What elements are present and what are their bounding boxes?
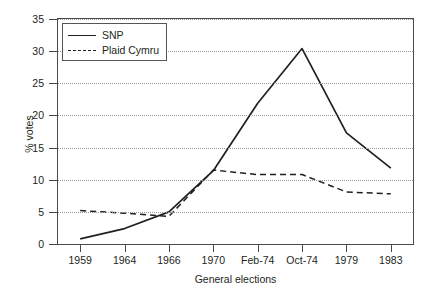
y-axis-label: 10 bbox=[0, 175, 44, 186]
x-axis-tick bbox=[258, 245, 259, 252]
y-axis-label: 20 bbox=[0, 110, 44, 121]
y-axis-tick bbox=[49, 244, 57, 245]
y-axis-tick bbox=[49, 83, 57, 84]
gridline bbox=[58, 148, 413, 149]
x-axis-tick bbox=[302, 245, 303, 252]
legend-item-plaid-cymru: Plaid Cymru bbox=[68, 43, 166, 58]
gridline bbox=[58, 180, 413, 181]
y-axis-label: 30 bbox=[0, 46, 44, 57]
series-line-snp bbox=[80, 49, 391, 239]
y-axis-label: 5 bbox=[0, 207, 44, 218]
gridline bbox=[58, 212, 413, 213]
y-axis-tick bbox=[49, 115, 57, 116]
chart-legend: SNP Plaid Cymru bbox=[62, 23, 167, 61]
y-axis-title: % votes bbox=[23, 89, 35, 179]
chart-container: % votes 05101520253035 1959196419661970F… bbox=[0, 0, 436, 295]
series-line-plaid-cymru bbox=[80, 170, 391, 216]
x-axis-tick bbox=[391, 245, 392, 252]
x-axis-tick bbox=[80, 245, 81, 252]
legend-key-solid-icon bbox=[68, 31, 96, 41]
gridline bbox=[58, 19, 413, 20]
x-axis-tick bbox=[213, 245, 214, 252]
gridline bbox=[58, 115, 413, 116]
y-axis-tick bbox=[49, 212, 57, 213]
gridline bbox=[58, 83, 413, 84]
y-axis-tick bbox=[49, 180, 57, 181]
y-axis-label: 35 bbox=[0, 14, 44, 25]
y-axis-tick bbox=[49, 148, 57, 149]
legend-label-plaid-cymru: Plaid Cymru bbox=[102, 45, 159, 56]
legend-key-dashed-icon bbox=[68, 46, 96, 56]
x-axis-tick bbox=[125, 245, 126, 252]
x-axis-title: General elections bbox=[57, 273, 414, 285]
y-axis-label: 15 bbox=[0, 143, 44, 154]
y-axis-label: 25 bbox=[0, 78, 44, 89]
y-axis-tick bbox=[49, 19, 57, 20]
x-axis-label: 1983 bbox=[359, 254, 423, 266]
x-axis-tick bbox=[169, 245, 170, 252]
y-axis-tick bbox=[49, 51, 57, 52]
legend-label-snp: SNP bbox=[102, 30, 124, 41]
legend-item-snp: SNP bbox=[68, 28, 166, 43]
x-axis-tick bbox=[346, 245, 347, 252]
y-axis-label: 0 bbox=[0, 239, 44, 250]
